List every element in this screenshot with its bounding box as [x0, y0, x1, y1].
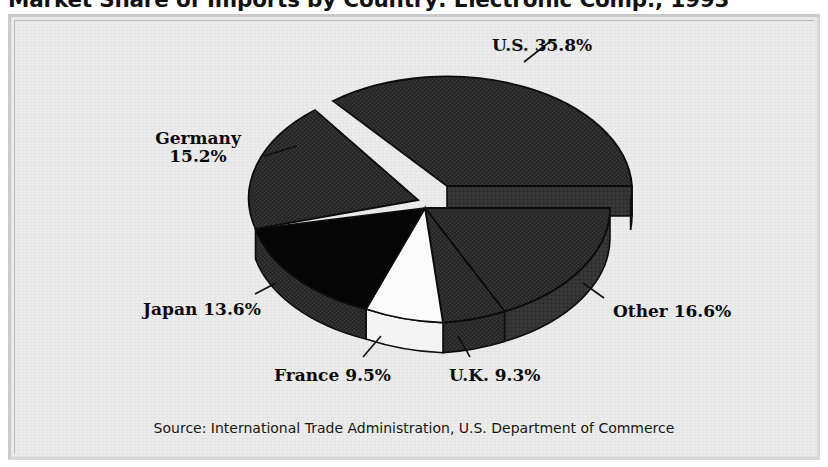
slice-label-germany-value: 15.2%	[139, 147, 257, 165]
chart-screenshot: Market Share of Imports by Country: Elec…	[0, 0, 828, 467]
slice-label-other: Other 16.6%	[613, 302, 731, 320]
source-note: Source: International Trade Administrati…	[0, 420, 828, 436]
slice-label-us: U.S. 35.8%	[492, 36, 592, 54]
slice-label-uk: U.K. 9.3%	[449, 366, 541, 384]
slice-label-germany-name: Germany	[139, 129, 257, 147]
slice-label-france: France 9.5%	[274, 366, 391, 384]
pie-chart-graphic	[0, 0, 828, 467]
slice-label-germany: Germany 15.2%	[139, 129, 257, 166]
slice-label-japan: Japan 13.6%	[143, 300, 261, 318]
